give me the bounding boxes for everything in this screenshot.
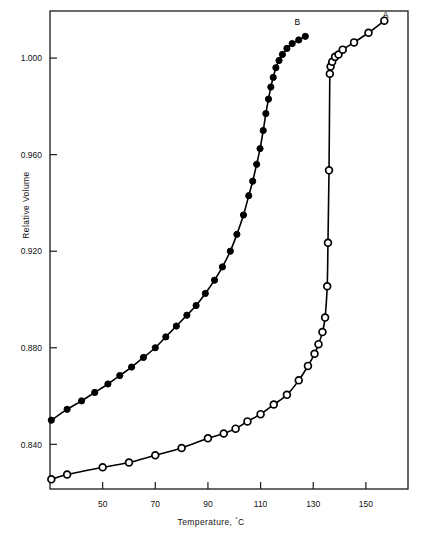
data-point-b [276,57,282,63]
data-point-b [92,389,98,395]
data-point-a [339,46,346,53]
data-point-a [48,476,55,483]
data-point-b [296,37,302,43]
data-point-b [284,45,290,51]
y-tick-label: 0.840 [21,440,43,450]
data-point-a [319,329,326,336]
data-point-b [302,33,308,39]
chart-plot-area: 5070901101301500.8400.8800.9200.9601.000… [0,0,422,543]
data-point-a [152,452,159,459]
x-tick-label: 150 [359,499,373,509]
axis-tick-labels: 5070901101301500.8400.8800.9200.9601.000 [21,53,374,509]
x-axis-title-text: Temperature, [178,517,236,527]
data-point-a [270,401,277,408]
data-point-b [152,345,158,351]
data-point-a [244,418,251,425]
data-point-b [140,354,146,360]
data-point-a [311,350,318,357]
data-point-a [324,283,331,290]
data-point-a [220,430,227,437]
x-tick-label: 110 [254,499,268,509]
curve-label-a: A [383,10,389,20]
data-point-b [211,277,217,283]
data-point-b [279,51,285,57]
data-point-b [257,146,263,152]
data-curves [51,21,384,480]
data-point-a [99,464,106,471]
x-tick-label: 130 [306,499,320,509]
data-point-b [184,312,190,318]
data-point-a [365,29,372,36]
data-point-b [270,74,276,80]
data-point-b [129,364,135,370]
data-point-a [205,435,212,442]
data-point-a [64,471,71,478]
x-tick-label: 90 [203,499,213,509]
data-point-a [325,239,332,246]
x-axis-title: Temperature, °C [0,516,422,527]
data-point-b [163,334,169,340]
curve-labels: AB [295,10,389,27]
data-point-b [246,193,252,199]
data-point-b [250,178,256,184]
data-point-b [265,96,271,102]
data-point-b [64,406,70,412]
data-point-b [105,381,111,387]
data-markers [48,17,388,482]
y-tick-label: 1.000 [21,53,43,63]
data-point-b [260,127,266,133]
data-point-a [315,341,322,348]
data-point-a [351,39,358,46]
curve-label-b: B [295,17,301,27]
data-point-b [202,290,208,296]
data-point-b [273,65,279,71]
data-point-b [289,40,295,46]
x-tick-label: 50 [98,499,108,509]
data-point-b [117,372,123,378]
data-point-b [234,231,240,237]
data-point-a [326,70,333,77]
data-point-b [78,398,84,404]
data-point-a [326,167,333,174]
data-point-a [178,445,185,452]
curve-line-b [51,36,305,420]
data-point-a [284,391,291,398]
data-point-b [219,264,225,270]
x-tick-label: 70 [151,499,161,509]
x-axis-unit: C [238,517,245,527]
data-point-a [295,377,302,384]
data-point-a [322,314,329,321]
figure-container: 5070901101301500.8400.8800.9200.9601.000… [0,0,422,543]
data-point-a [126,459,133,466]
data-point-b [240,212,246,218]
data-point-b [173,323,179,329]
data-point-a [257,411,264,418]
data-point-b [227,248,233,254]
data-point-b [268,84,274,90]
data-point-b [254,161,260,167]
data-point-b [193,302,199,308]
axis-ticks [50,58,366,489]
y-axis-title: Relative Volume [21,145,31,265]
data-point-b [263,111,269,117]
y-tick-label: 0.880 [21,343,43,353]
data-point-a [232,425,239,432]
data-point-a [305,362,312,369]
data-point-b [48,417,54,423]
curve-line-a [51,21,384,480]
